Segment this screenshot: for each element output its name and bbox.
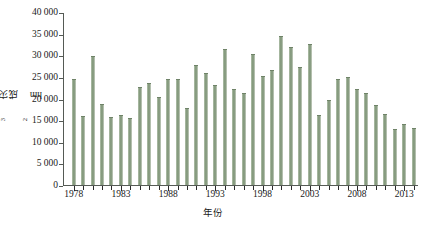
x-axis-tick-label: 1978	[64, 190, 83, 200]
bar	[393, 129, 397, 185]
bar	[81, 116, 85, 185]
bar	[176, 79, 180, 185]
bar	[91, 56, 95, 185]
bar	[166, 79, 170, 185]
x-axis-tick-label: 2008	[347, 190, 366, 200]
x-axis-tick-label: 1998	[253, 190, 272, 200]
y-axis-tick-label: 0	[53, 181, 58, 191]
bar	[204, 73, 208, 185]
bar	[119, 115, 123, 185]
bar	[402, 124, 406, 185]
bar	[364, 93, 368, 185]
x-axis-title-text: 年份	[203, 205, 223, 219]
x-axis-tick-label: 1993	[206, 190, 225, 200]
bar	[213, 85, 217, 185]
bar	[383, 114, 387, 185]
bar	[327, 100, 331, 185]
y-axis-tick-label: 40 000	[32, 8, 58, 18]
y-axis-title: 成灾面积/103hm2	[0, 0, 18, 190]
bar	[298, 67, 302, 185]
bar	[308, 44, 312, 185]
y-axis-tick-label: 25 000	[32, 73, 58, 83]
bar	[109, 117, 113, 185]
bar	[412, 128, 416, 185]
bar	[242, 93, 246, 185]
bar	[138, 87, 142, 185]
bar	[336, 79, 340, 185]
x-axis-tick-label: 2003	[300, 190, 319, 200]
plot-area	[63, 13, 418, 186]
bar	[100, 104, 104, 185]
x-axis-title: 年份	[0, 205, 426, 219]
bar-series	[63, 13, 418, 186]
x-axis-tick-label: 1988	[159, 190, 178, 200]
bar	[289, 47, 293, 185]
bar	[128, 118, 132, 185]
y-axis-title-exponent: 3	[0, 118, 6, 121]
x-axis-tick-label: 1983	[111, 190, 130, 200]
y-axis-tick-label: 35 000	[32, 30, 58, 40]
x-axis-tick-labels: 19781983198819931998200320082013	[63, 190, 418, 204]
bar	[223, 49, 227, 185]
y-axis-tick-label: 30 000	[32, 52, 58, 62]
bar	[232, 89, 236, 185]
bar	[147, 83, 151, 186]
bar	[270, 70, 274, 185]
bar	[374, 105, 378, 185]
y-axis-tick-label: 5 000	[37, 160, 58, 170]
y-axis-tick-label: 10 000	[32, 138, 58, 148]
bar	[194, 65, 198, 185]
bar	[157, 97, 161, 185]
bar	[279, 36, 283, 185]
x-axis-tick-label: 2013	[395, 190, 414, 200]
bar	[72, 79, 76, 185]
y-axis-tick-label: 20 000	[32, 95, 58, 105]
bar	[355, 89, 359, 185]
y-axis-tick-label: 15 000	[32, 116, 58, 126]
bar	[251, 54, 255, 185]
bar	[317, 115, 321, 185]
y-axis-tick-mark	[59, 186, 63, 187]
bar	[185, 108, 189, 185]
bar	[346, 77, 350, 185]
chart-figure: 成灾面积/103hm2 05 00010 00015 00020 00025 0…	[0, 0, 426, 226]
bar	[261, 76, 265, 185]
y-axis-tick-labels: 05 00010 00015 00020 00025 00030 00035 0…	[18, 0, 62, 192]
